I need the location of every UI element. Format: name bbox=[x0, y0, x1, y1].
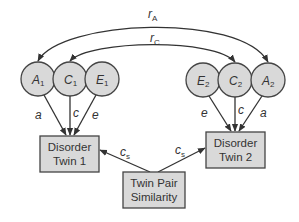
e2-label: e bbox=[201, 106, 208, 120]
a1-label: a bbox=[35, 108, 42, 122]
node-A1: A1 bbox=[21, 62, 55, 96]
svg-text:Disorder: Disorder bbox=[48, 141, 92, 153]
c1-label: c bbox=[73, 106, 79, 120]
node-A2: A2 bbox=[251, 63, 285, 97]
twin-model-diagram: rA rC a c e e c a cs cs A1 C1 E1 E2 C2 A… bbox=[0, 0, 299, 222]
a1-path bbox=[44, 95, 66, 135]
svg-text:Twin Pair: Twin Pair bbox=[130, 177, 177, 189]
e1-label: e bbox=[92, 108, 99, 122]
rC-label: rC bbox=[150, 31, 160, 47]
svg-text:Twin 1: Twin 1 bbox=[53, 155, 86, 167]
box-disorder-twin2: Disorder Twin 2 bbox=[206, 132, 265, 168]
box-disorder-twin1: Disorder Twin 1 bbox=[40, 136, 99, 172]
svg-text:Similarity: Similarity bbox=[131, 191, 178, 203]
e2-path bbox=[209, 96, 231, 131]
svg-text:Twin 2: Twin 2 bbox=[219, 151, 252, 163]
rA-label: rA bbox=[148, 7, 158, 23]
c2-label: c bbox=[238, 103, 244, 117]
cs1-label: cs bbox=[120, 145, 130, 161]
svg-text:Disorder: Disorder bbox=[214, 137, 258, 149]
cs2-label: cs bbox=[175, 143, 185, 159]
node-E2: E2 bbox=[186, 63, 220, 97]
a2-label: a bbox=[260, 106, 267, 120]
rC-arc bbox=[70, 45, 235, 62]
node-C1: C1 bbox=[53, 62, 87, 96]
box-twin-pair-similarity: Twin Pair Similarity bbox=[123, 172, 185, 208]
node-E1: E1 bbox=[85, 62, 119, 96]
node-C2: C2 bbox=[218, 63, 252, 97]
